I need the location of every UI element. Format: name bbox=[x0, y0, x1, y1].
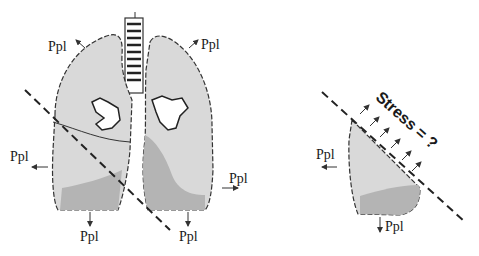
ppl-label-bottom-right: Ppl bbox=[179, 230, 198, 244]
ppl-label-upper-left: Ppl bbox=[48, 40, 67, 54]
ppl-label-segment-bottom: Ppl bbox=[385, 220, 404, 234]
ppl-label-mid-left: Ppl bbox=[10, 150, 29, 164]
right-lung bbox=[53, 35, 132, 210]
trachea bbox=[125, 12, 143, 93]
ppl-label-bottom-left: Ppl bbox=[80, 230, 99, 244]
ppl-label-upper-right: Ppl bbox=[201, 38, 220, 52]
ppl-label-segment-left: Ppl bbox=[316, 148, 335, 162]
ppl-label-mid-right: Ppl bbox=[229, 172, 248, 186]
left-lung bbox=[143, 36, 213, 210]
